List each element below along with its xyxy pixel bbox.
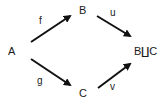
- label-f: f: [39, 15, 42, 26]
- node-coproduct: B∐C: [134, 45, 157, 57]
- label-g: g: [37, 75, 43, 86]
- node-c: C: [79, 87, 87, 99]
- arrow-b-to-coproduct: [97, 16, 130, 36]
- diagram-canvas: A B C B∐C f g u v: [0, 0, 160, 101]
- label-v: v: [110, 81, 115, 92]
- node-b: B: [79, 4, 86, 16]
- node-a: A: [8, 45, 16, 57]
- label-u: u: [110, 7, 116, 18]
- arrow-a-to-b: [31, 16, 70, 42]
